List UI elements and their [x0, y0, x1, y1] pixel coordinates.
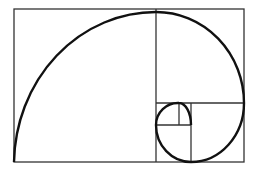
golden-spiral-diagram: [0, 0, 255, 173]
golden-spiral-curve: [14, 12, 244, 162]
